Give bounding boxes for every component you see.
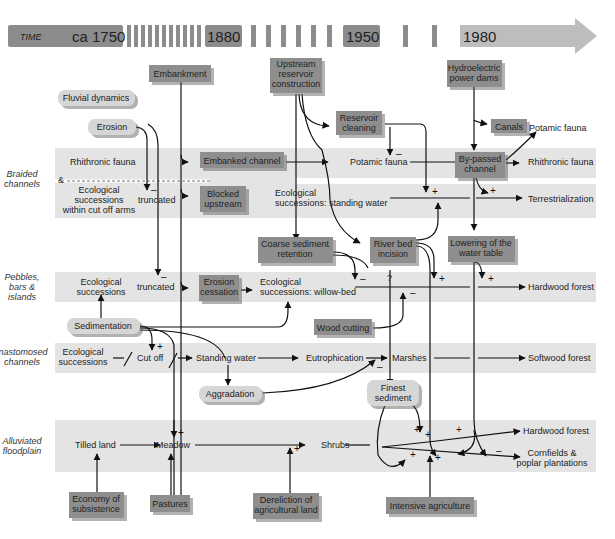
svg-text:Hydroelectricpower dams: Hydroelectricpower dams [448, 63, 501, 83]
ampersand: & [58, 175, 64, 185]
svg-text:+: + [178, 427, 184, 438]
box-coarse-sediment: Coarse sedimentretention [258, 237, 336, 266]
state-hardwood-forest-1: Hardwood forest [528, 282, 595, 292]
box-river-bed-incision: River bedincision [370, 237, 419, 266]
svg-text:+: + [294, 443, 300, 454]
svg-text:+: + [414, 424, 420, 435]
box-hydroelectric: Hydroelectricpower dams [447, 60, 505, 90]
svg-text:Aggradation: Aggradation [206, 389, 255, 399]
box-upstream-reservoir: Upstreamreservoirconstruction [270, 58, 325, 96]
svg-text:+: + [488, 273, 494, 284]
svg-text:+: + [157, 341, 163, 352]
svg-text:–: – [377, 361, 383, 372]
box-economy-subsistence: Economy ofsubsistence [69, 492, 127, 521]
state-eco-pebbles: Ecologicalsuccessions [76, 277, 126, 297]
state-tilled-land: Tilled land [75, 440, 116, 450]
svg-text:+: + [425, 429, 431, 440]
timeline-year-1750: ca 1750 [72, 28, 125, 45]
state-truncated: truncated [138, 195, 176, 205]
svg-text:Economy ofsubsistence: Economy ofsubsistence [72, 494, 120, 514]
svg-text:+: + [410, 449, 416, 460]
timeline-tick [432, 25, 437, 47]
svg-text:Embankment: Embankment [153, 69, 207, 79]
svg-text:+: + [435, 452, 441, 463]
river-landscape-evolution-diagram: TIME ca 1750 1880 1950 1980 Braidedchann… [0, 0, 615, 539]
row-labels: Braidedchannels Pebbles,bars &islands An… [0, 169, 49, 456]
timeline-year-1980: 1980 [463, 28, 496, 45]
box-bypassed-channel: By-passedchannel [455, 152, 508, 181]
box-canals: Canals [491, 119, 530, 136]
box-embankment: Embankment [149, 65, 214, 85]
pill-erosion: Erosion [88, 119, 139, 138]
svg-text:Wood cutting: Wood cutting [317, 323, 369, 333]
svg-text:Sedimentation: Sedimentation [74, 321, 132, 331]
state-eutrophication: Eutrophication [306, 353, 364, 363]
state-marshes: Marshes [392, 353, 427, 363]
state-potamic-fauna: Potamic fauna [350, 157, 408, 167]
state-softwood-forest: Softwood forest [528, 353, 591, 363]
question-mark: ? [387, 273, 392, 283]
svg-text:–: – [410, 287, 416, 298]
timeline-year-1880: 1880 [207, 28, 240, 45]
svg-text:Erosioncessation: Erosioncessation [200, 277, 238, 297]
pill-fluvial-dynamics: Fluvial dynamics [58, 90, 138, 109]
svg-text:Intensive agriculture: Intensive agriculture [390, 501, 471, 511]
row-label-braided: Braidedchannels [4, 169, 41, 189]
svg-text:–: – [151, 184, 157, 195]
svg-text:Dereliction ofagricultural lan: Dereliction ofagricultural land [254, 495, 318, 515]
state-truncated-2: truncated [137, 282, 175, 292]
box-dereliction: Dereliction ofagricultural land [253, 493, 322, 522]
state-eco-anastomosed: Ecologicalsuccessions [58, 347, 108, 367]
svg-text:Erosion: Erosion [97, 122, 128, 132]
state-rhithronic-fauna-2: Rhithronic fauna [528, 157, 594, 167]
svg-text:Blockedupstream: Blockedupstream [204, 189, 242, 209]
svg-text:Reservoircleaning: Reservoircleaning [340, 113, 379, 133]
box-blocked-upstream: Blockedupstream [200, 186, 249, 215]
box-lowering-water-table: Lowering of thewater table [448, 236, 518, 265]
svg-text:Pastures: Pastures [152, 499, 188, 509]
pill-sedimentation: Sedimentation [67, 318, 143, 337]
timeline-ticks-1 [127, 25, 201, 47]
svg-text:Canals: Canals [495, 122, 524, 132]
box-wood-cutting: Wood cutting [314, 319, 375, 338]
row-label-floodplain: Alluviatedfloodplain [1, 436, 42, 456]
pill-finest-sediment: Finestsediment [367, 380, 422, 409]
svg-text:Embanked channel: Embanked channel [203, 156, 280, 166]
state-potamic-fauna-canals: Potamic fauna [529, 123, 587, 133]
row-label-pebbles: Pebbles,bars &islands [4, 272, 39, 302]
timeline-label: TIME [20, 32, 42, 42]
box-embanked-channel: Embanked channel [200, 152, 287, 171]
svg-text:–: – [360, 273, 366, 284]
svg-text:By-passedchannel: By-passedchannel [459, 154, 502, 174]
svg-text:Lowering of thewater table: Lowering of thewater table [450, 238, 512, 258]
pill-aggradation: Aggradation [199, 386, 265, 405]
state-meadow: Meadow [156, 440, 191, 450]
row-label-anastomosed: Anastomosedchannels [0, 347, 49, 367]
box-reservoir-cleaning: Reservoircleaning [336, 111, 385, 138]
svg-text:Upstreamreservoirconstruction: Upstreamreservoirconstruction [272, 59, 321, 89]
box-erosion-cessation: Erosioncessation [199, 275, 242, 304]
svg-text:Fluvial dynamics: Fluvial dynamics [63, 93, 130, 103]
state-rhithronic-fauna: Rhithronic fauna [70, 157, 136, 167]
timeline: TIME ca 1750 1880 1950 1980 [8, 18, 597, 54]
svg-text:–: – [161, 271, 167, 282]
state-standing-water: Standing water [196, 353, 256, 363]
svg-text:+: + [456, 424, 462, 435]
svg-text:River bedincision: River bedincision [374, 239, 413, 259]
box-intensive-agriculture: Intensive agriculture [386, 497, 477, 517]
box-pastures: Pastures [150, 495, 193, 515]
timeline-year-1950: 1950 [346, 28, 379, 45]
timeline-tick [403, 25, 408, 47]
svg-text:+: + [439, 273, 445, 284]
state-hardwood-forest-2: Hardwood forest [523, 426, 590, 436]
state-terrestrialization: Terrestrialization [528, 194, 594, 204]
svg-text:–: – [496, 445, 502, 456]
svg-text:+: + [490, 185, 496, 196]
state-shrubs: Shrubs [321, 440, 350, 450]
row-bands [55, 148, 596, 472]
svg-text:+: + [432, 186, 438, 197]
state-cut-off: Cut off [137, 353, 164, 363]
timeline-ticks-2 [251, 25, 332, 47]
